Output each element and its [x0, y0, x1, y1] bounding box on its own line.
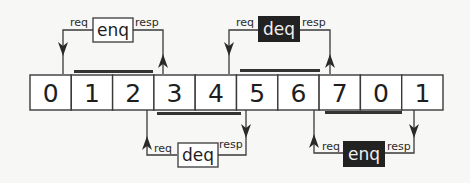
resp-label: resp [302, 16, 326, 29]
buffer-cell-value: 0 [373, 79, 389, 108]
req-label: req [154, 142, 172, 155]
buffer-row: 0123456701 [30, 75, 443, 110]
resp-label: resp [387, 140, 411, 153]
ring-buffer-diagram: 0123456701 req resp enq req resp deq req… [0, 0, 470, 183]
buffer-cell-value: 7 [332, 79, 348, 108]
enq-label: enq [97, 20, 129, 40]
req-label: req [236, 16, 254, 29]
req-label: req [322, 140, 340, 153]
buffer-cell-value: 6 [290, 79, 306, 108]
buffer-cell-value: 0 [43, 79, 59, 108]
resp-label: resp [219, 138, 243, 151]
buffer-cell-value: 4 [208, 79, 224, 108]
span-bar [74, 70, 153, 73]
buffer-cell-value: 3 [167, 79, 183, 108]
enq-label: enq [348, 144, 380, 164]
span-bar [157, 112, 241, 115]
req-label: req [70, 16, 88, 29]
deq-label: deq [182, 145, 214, 165]
span-bar [325, 111, 402, 114]
req-line [229, 30, 258, 74]
buffer-cell-value: 5 [249, 79, 265, 108]
deq-bottom-operation: req resp deq [142, 110, 251, 167]
buffer-cell-value: 2 [125, 79, 141, 108]
deq-label: deq [263, 19, 295, 39]
deq-top-operation: req resp deq [224, 16, 335, 74]
span-bar [240, 69, 320, 72]
buffer-cell-value: 1 [84, 79, 100, 108]
buffer-cell-value: 1 [414, 79, 430, 108]
req-line [63, 30, 93, 74]
resp-label: resp [135, 16, 159, 29]
enq-bottom-operation: req resp enq [309, 110, 419, 167]
enq-top-operation: req resp enq [58, 16, 168, 74]
